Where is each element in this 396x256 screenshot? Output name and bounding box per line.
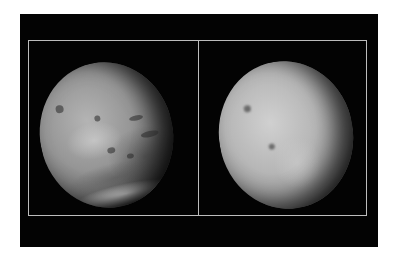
black-panel <box>20 14 378 247</box>
crater-marking <box>107 147 116 155</box>
image-frame <box>28 40 367 216</box>
dark-spot <box>243 105 251 113</box>
crater-marking <box>126 153 134 159</box>
crater-marking <box>129 114 144 122</box>
dark-spot <box>268 143 275 150</box>
planet-right-view <box>207 50 365 219</box>
panel-divider <box>198 41 199 215</box>
crater-marking <box>140 129 159 139</box>
crater-marking <box>94 115 101 122</box>
planet-left-view <box>26 50 186 220</box>
crater-marking <box>55 104 64 113</box>
image-canvas <box>0 0 396 256</box>
